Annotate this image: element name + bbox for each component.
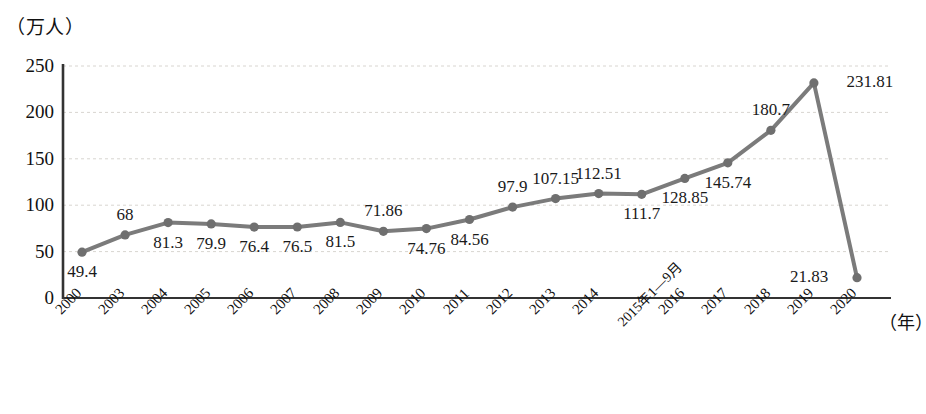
data-point-label: 231.81 [847,72,894,92]
y-axis-tick-label: 200 [8,101,54,123]
y-axis-tick-label: 0 [8,287,54,309]
data-point-marker[interactable] [121,230,130,239]
data-point-label: 71.86 [364,201,402,221]
data-point-marker[interactable] [551,194,560,203]
data-point-marker[interactable] [379,227,388,236]
data-point-label: 76.5 [282,237,312,257]
data-point-label: 112.51 [576,164,622,184]
data-point-label: 76.4 [239,237,269,257]
data-point-marker[interactable] [508,203,517,212]
data-point-marker[interactable] [594,189,603,198]
data-point-marker[interactable] [164,218,173,227]
data-point-label: 128.85 [661,188,708,208]
data-point-label: 180.7 [752,100,790,120]
y-axis-tick-label: 250 [8,55,54,77]
data-point-label: 107.15 [532,169,579,189]
data-point-label: 49.4 [67,262,97,282]
data-point-marker[interactable] [336,218,345,227]
data-point-marker[interactable] [809,78,818,87]
y-axis-tick-label: 100 [8,194,54,216]
data-point-marker[interactable] [852,273,861,282]
data-point-marker[interactable] [293,222,302,231]
x-axis-label: （年） [879,308,926,334]
data-point-marker[interactable] [77,248,86,257]
axis-lines [63,64,891,299]
data-point-marker[interactable] [723,158,732,167]
data-point-marker[interactable] [250,223,259,232]
data-point-label: 74.76 [407,239,445,259]
data-point-marker[interactable] [465,215,474,224]
data-point-label: 111.7 [623,204,660,224]
data-point-label: 68 [117,205,134,225]
y-axis-tick-label: 50 [8,241,54,263]
data-point-marker[interactable] [766,126,775,135]
data-point-label: 81.5 [325,232,355,252]
y-axis-tick-label: 150 [8,148,54,170]
data-point-label: 145.74 [704,173,751,193]
data-point-label: 81.3 [153,233,183,253]
data-point-marker[interactable] [637,190,646,199]
data-point-label: 79.9 [196,234,226,254]
data-point-marker[interactable] [680,174,689,183]
data-point-label: 84.56 [450,230,488,250]
data-point-marker[interactable] [207,219,216,228]
data-point-label: 21.83 [790,267,828,287]
data-point-marker[interactable] [422,224,431,233]
data-point-label: 97.9 [498,177,528,197]
